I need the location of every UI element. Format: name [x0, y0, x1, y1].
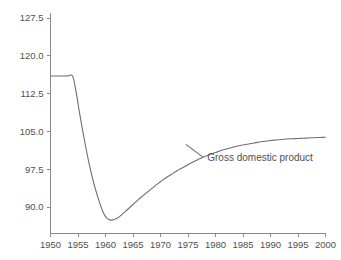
chart-background — [0, 0, 341, 260]
y-tick-label: 120.0 — [20, 50, 44, 61]
series-annotation-gross-domestic-product: Gross domestic product — [207, 152, 313, 163]
gdp-line-chart: 90.097.5105.0112.5120.0127.5 19501955196… — [0, 0, 341, 260]
x-tick-label: 1950 — [40, 239, 61, 250]
y-tick-label: 105.0 — [20, 126, 44, 137]
x-tick-label: 1985 — [232, 239, 253, 250]
x-tick-label: 1995 — [287, 239, 308, 250]
x-tick-label: 1955 — [67, 239, 88, 250]
y-tick-label: 97.5 — [25, 164, 44, 175]
chart-canvas: 90.097.5105.0112.5120.0127.5 19501955196… — [0, 0, 341, 260]
x-tick-label: 1960 — [95, 239, 116, 250]
x-tick-label: 1970 — [150, 239, 171, 250]
y-tick-label: 90.0 — [25, 201, 44, 212]
x-tick-label: 1980 — [205, 239, 226, 250]
y-tick-label: 112.5 — [20, 88, 43, 99]
x-tick-label: 2000 — [315, 239, 336, 250]
y-tick-label: 127.5 — [20, 12, 44, 23]
x-tick-label: 1965 — [122, 239, 143, 250]
x-tick-label: 1990 — [260, 239, 281, 250]
x-tick-label: 1975 — [177, 239, 198, 250]
